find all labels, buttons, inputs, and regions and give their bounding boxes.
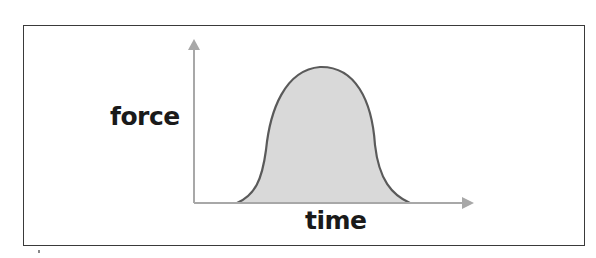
y-axis-label: force	[110, 102, 180, 131]
x-axis-arrow-icon	[462, 197, 474, 209]
force-time-plot	[0, 0, 596, 258]
x-axis-label: time	[305, 206, 367, 235]
scan-speck	[38, 250, 40, 253]
y-axis-arrow-icon	[188, 39, 200, 50]
impulse-area	[237, 67, 410, 203]
